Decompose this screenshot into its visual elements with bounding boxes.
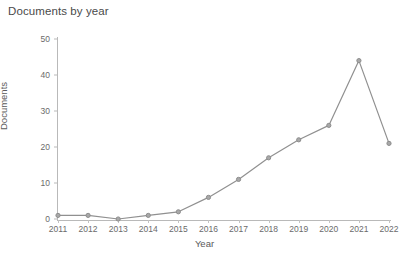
x-tick-label: 2017 <box>229 224 248 234</box>
x-tick-mark <box>178 220 179 223</box>
x-tick-label: 2014 <box>139 224 158 234</box>
x-tick-label: 2015 <box>169 224 188 234</box>
x-tick-mark <box>389 220 390 223</box>
x-tick-label: 2012 <box>79 224 98 234</box>
x-tick-label: 2011 <box>49 224 67 234</box>
chart-container: Documents by year 01020304050 2011201220… <box>0 0 409 261</box>
x-tick-mark <box>299 220 300 223</box>
x-tick-mark <box>148 220 149 223</box>
x-tick-mark <box>359 220 360 223</box>
x-tick-mark <box>58 220 59 223</box>
x-tick-mark <box>208 220 209 223</box>
x-tick-mark <box>88 220 89 223</box>
x-axis-ticks: 2011201220132014201520162017201820192020… <box>0 0 409 261</box>
y-axis-title: Documents <box>0 82 9 130</box>
x-tick-label: 2020 <box>319 224 338 234</box>
x-tick-mark <box>269 220 270 223</box>
x-tick-label: 2018 <box>259 224 278 234</box>
x-axis-title: Year <box>0 238 409 249</box>
x-tick-mark <box>239 220 240 223</box>
x-tick-label: 2019 <box>289 224 308 234</box>
x-tick-mark <box>329 220 330 223</box>
x-tick-label: 2022 <box>380 224 399 234</box>
x-tick-mark <box>118 220 119 223</box>
x-tick-label: 2016 <box>199 224 218 234</box>
x-tick-label: 2021 <box>349 224 368 234</box>
x-tick-label: 2013 <box>109 224 128 234</box>
